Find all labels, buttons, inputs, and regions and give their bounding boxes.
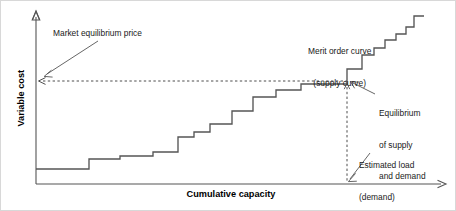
annotation-estimated-load-demand: Estimated load (demand)	[359, 139, 414, 211]
annotation-merit-order-curve-line-2: (supply curve)	[308, 78, 371, 89]
annotation-estimated-load-line-1: Estimated load	[359, 160, 414, 171]
x-axis-title: Cumulative capacity	[131, 189, 331, 200]
market-equilibrium-price-leader-line	[47, 41, 98, 74]
annotation-market-equilibrium-price: Market equilibrium price	[53, 28, 142, 39]
annotation-equilibrium-line-1: Equilibrium	[379, 108, 426, 119]
annotation-merit-order-curve: Merit order curve (supply curve)	[308, 25, 371, 109]
estimated-load-leader-arrow-icon	[348, 173, 356, 181]
annotation-merit-order-curve-line-1: Merit order curve	[308, 46, 371, 57]
merit-order-curve-diagram: Variable cost Cumulative capacity Market…	[0, 0, 456, 211]
y-axis-title: Variable cost	[16, 59, 27, 137]
annotation-estimated-load-line-2: (demand)	[359, 192, 414, 203]
